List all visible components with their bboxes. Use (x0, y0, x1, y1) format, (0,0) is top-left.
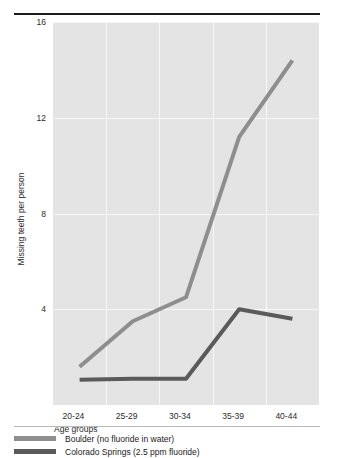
y-axis-tick-labels: 161284 (0, 18, 53, 409)
series-line (80, 60, 293, 366)
x-tick-label: 40-44 (275, 411, 297, 421)
y-tick-label: 12 (37, 113, 46, 123)
x-tick-label: 25-29 (116, 411, 138, 421)
y-tick-label: 8 (41, 209, 46, 219)
x-tick-label: 30-34 (169, 411, 191, 421)
x-axis-tick-labels: 20-2425-2930-3435-3940-44 (53, 409, 329, 425)
legend-divider-rule (14, 426, 320, 427)
y-axis-title: Missing teeth per person (16, 124, 26, 314)
y-tick-label: 16 (37, 17, 46, 27)
chart-figure: 161284 Missing teeth per person 20-2425-… (0, 0, 339, 458)
legend-item: Boulder (no fluoride in water) (14, 432, 334, 445)
top-divider-rule (14, 13, 320, 15)
legend-item: Colorado Springs (2.5 ppm fluoride) (14, 445, 334, 458)
x-tick-label: 35-39 (222, 411, 244, 421)
x-tick-label: 20-24 (63, 411, 85, 421)
plot-wrapper: 161284 Missing teeth per person 20-2425-… (0, 18, 339, 410)
y-tick-label: 4 (41, 304, 46, 314)
legend-label: Colorado Springs (2.5 ppm fluoride) (65, 447, 200, 457)
chart-legend: Boulder (no fluoride in water)Colorado S… (14, 432, 334, 458)
legend-swatch (14, 449, 56, 454)
legend-label: Boulder (no fluoride in water) (65, 434, 174, 444)
data-series-layer (53, 22, 319, 405)
legend-swatch (14, 436, 56, 441)
series-line (80, 309, 293, 380)
